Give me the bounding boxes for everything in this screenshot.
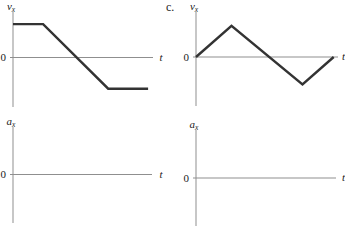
acceleration-graph-right: ax0t	[184, 118, 345, 226]
acceleration-graph-left: ax0t	[1, 115, 164, 223]
origin-label: 0	[1, 168, 7, 180]
t-axis-label: t	[160, 51, 164, 63]
kinematics-figure: c. vx0tvx0tax0tax0t	[0, 0, 345, 233]
velocity-graph-right: vx0t	[184, 0, 345, 106]
vx-curve	[13, 24, 148, 89]
origin-label: 0	[184, 51, 190, 63]
velocity-graph-left: vx0t	[1, 0, 164, 107]
y-axis-label: ax	[190, 118, 200, 132]
graphs-canvas: vx0tvx0tax0tax0t	[0, 0, 345, 233]
origin-label: 0	[184, 172, 190, 184]
origin-label: 0	[1, 51, 7, 63]
y-axis-label: vx	[7, 0, 16, 14]
t-axis-label: t	[160, 168, 164, 180]
vx-curve	[196, 26, 334, 85]
y-axis-label: vx	[190, 0, 199, 14]
y-axis-label: ax	[7, 115, 17, 129]
